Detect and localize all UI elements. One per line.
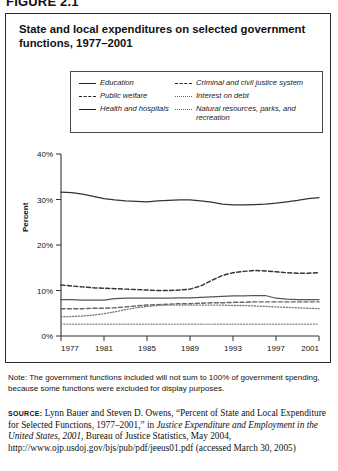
y-tick-label: 30% (37, 196, 53, 205)
legend-label: Education (100, 78, 171, 87)
x-tick-label: 1993 (224, 344, 242, 353)
legend-item: Criminal and civil justice system (175, 78, 319, 88)
x-tick-label: 1989 (181, 344, 199, 353)
legend-item: Education (79, 78, 171, 88)
plot-area: Percent 0%10%20%30%40%197719811985198919… (19, 140, 324, 372)
y-tick-label: 0% (41, 332, 53, 341)
x-tick-label: 1985 (138, 344, 156, 353)
y-tick-label: 20% (37, 241, 53, 250)
chart-title: State and local expenditures on selected… (19, 23, 319, 50)
chart-source: SOURCE: Lynn Bauer and Steven D. Owens, … (8, 408, 330, 454)
legend-swatch-dash-icon (175, 79, 192, 88)
x-tick-label: 1997 (267, 344, 285, 353)
chart-note: Note: The government functions included … (8, 373, 330, 394)
legend-label: Natural resources, parks, and recreation (196, 104, 319, 122)
x-tick-label: 2001 (301, 344, 319, 353)
legend-swatch-solid-icon (79, 79, 96, 88)
chart-legend: EducationPublic welfareHealth and hospit… (70, 71, 323, 133)
legend-item: Public welfare (79, 91, 171, 101)
legend-label: Interest on debt (196, 91, 319, 100)
legend-swatch-dash-icon (79, 92, 96, 101)
x-tick-label: 1977 (61, 344, 79, 353)
legend-swatch-solid-icon (79, 105, 96, 114)
figure-number: FIGURE 2.1 (6, 0, 79, 9)
legend-item: Natural resources, parks, and recreation (175, 104, 319, 122)
series-line-interest-on-debt (61, 305, 319, 317)
series-line-public-welfare (61, 270, 319, 290)
y-tick-label: 10% (37, 287, 53, 296)
series-line-health-and-hospitals (61, 296, 319, 301)
figure-frame: State and local expenditures on selected… (5, 13, 331, 363)
legend-column-right: Criminal and civil justice systemInteres… (175, 78, 319, 125)
legend-label: Public welfare (100, 91, 171, 100)
legend-swatch-dot-icon (175, 92, 192, 101)
y-tick-label: 40% (37, 150, 53, 159)
legend-item: Interest on debt (175, 91, 319, 101)
legend-label: Health and hospitals (100, 104, 171, 113)
legend-swatch-dot-icon (175, 105, 192, 114)
x-tick-label: 1981 (95, 344, 113, 353)
legend-column-left: EducationPublic welfareHealth and hospit… (79, 78, 171, 117)
series-line-education (61, 192, 319, 205)
legend-item: Health and hospitals (79, 104, 171, 114)
line-chart-svg: 0%10%20%30%40%19771981198519891993199720… (19, 140, 324, 372)
legend-label: Criminal and civil justice system (196, 78, 319, 87)
source-label: SOURCE: (8, 410, 42, 417)
